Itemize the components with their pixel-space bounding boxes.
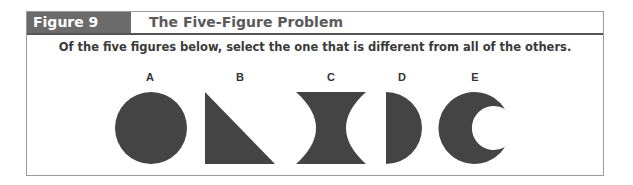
shape-a[interactable]: A [115, 71, 187, 164]
half-disc-shape [386, 92, 422, 164]
shape-d[interactable]: D [386, 71, 422, 164]
shape-c[interactable]: C [296, 71, 366, 164]
shape-label-a: A [146, 71, 154, 83]
triangle-shape [205, 92, 275, 164]
shape-label-e: E [471, 71, 478, 83]
shape-b[interactable]: B [205, 71, 275, 164]
hourglass-shape [296, 92, 366, 164]
crescent-shape [438, 92, 505, 164]
shape-label-c: C [327, 71, 335, 83]
shape-e[interactable]: E [438, 71, 505, 164]
shapes-panel: A B C D E [0, 0, 633, 185]
shape-label-d: D [398, 71, 406, 83]
shape-label-b: B [236, 71, 244, 83]
circle-shape [115, 92, 187, 164]
